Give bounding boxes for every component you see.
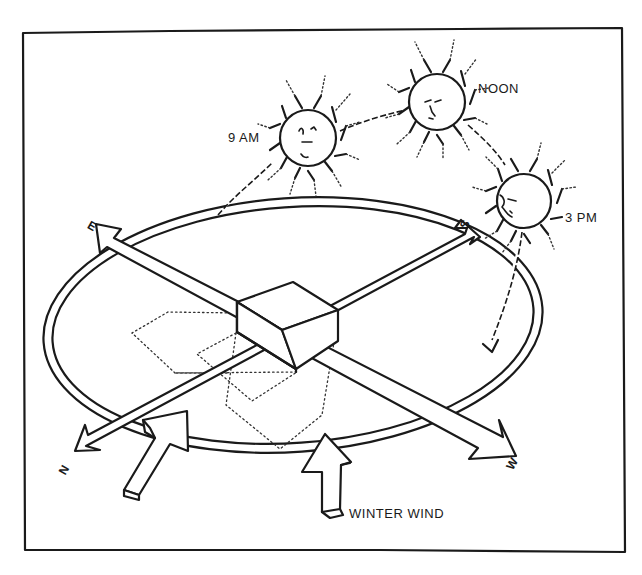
label-winter-wind: WINTER WIND (349, 506, 444, 521)
sun-path-diagram: 9 AM NOON 3 PM E S W N WINTER WIND (0, 0, 642, 575)
label-3pm: 3 PM (565, 210, 597, 225)
sun-noon (385, 40, 489, 160)
label-north: N (56, 463, 72, 478)
wind-arrow-left (124, 411, 188, 500)
label-9am: 9 AM (228, 130, 260, 145)
sun-9am (258, 76, 360, 196)
label-noon: NOON (478, 81, 519, 96)
